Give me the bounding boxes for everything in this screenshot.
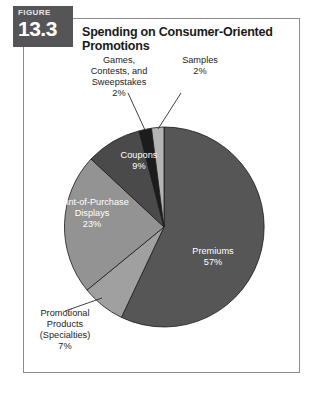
label-promotional-products: Promotional Products (Specialties) 7% — [40, 308, 91, 351]
figure-tab-word: FIGURE — [18, 8, 73, 17]
figure-container: FIGURE 13.3 Spending on Consumer-Oriente… — [0, 0, 322, 394]
label-samples-line2: 2% — [193, 66, 206, 76]
label-games-line2: Contests, and — [91, 66, 148, 76]
label-promotional-line3: (Specialties) — [40, 330, 91, 340]
label-samples: Samples 2% — [182, 55, 218, 76]
label-promotional-line2: Products — [47, 319, 84, 329]
label-promotional-line1: Promotional — [40, 308, 89, 318]
label-coupons-line1: Coupons — [121, 150, 158, 160]
pie-chart: Games, Contests, and Sweepstakes 2% Samp… — [23, 50, 300, 373]
label-coupons-line2: 9% — [132, 161, 145, 171]
label-games-line4: 2% — [112, 88, 125, 98]
leader-line-games — [128, 93, 145, 130]
figure-tab-number: 13.3 — [18, 17, 73, 40]
label-pop-line3: 23% — [83, 219, 101, 229]
pie-chart-svg: Games, Contests, and Sweepstakes 2% Samp… — [23, 50, 300, 373]
label-promotional-line4: 7% — [58, 341, 71, 351]
label-premiums-line1: Premiums — [192, 246, 234, 256]
figure-title: Spending on Consumer-Oriented Promotions — [82, 25, 297, 53]
label-pop-line1: Point-of-Purchase — [55, 197, 129, 207]
label-games-contests-sweepstakes: Games, Contests, and Sweepstakes 2% — [91, 55, 148, 98]
label-premiums-line2: 57% — [204, 257, 222, 267]
leader-line-samples — [158, 93, 181, 129]
label-pop-line2: Displays — [75, 208, 110, 218]
label-samples-line1: Samples — [182, 55, 218, 65]
label-games-line3: Sweepstakes — [92, 77, 147, 87]
figure-number-tab: FIGURE 13.3 — [13, 6, 73, 47]
label-games-line1: Games, — [103, 55, 135, 65]
